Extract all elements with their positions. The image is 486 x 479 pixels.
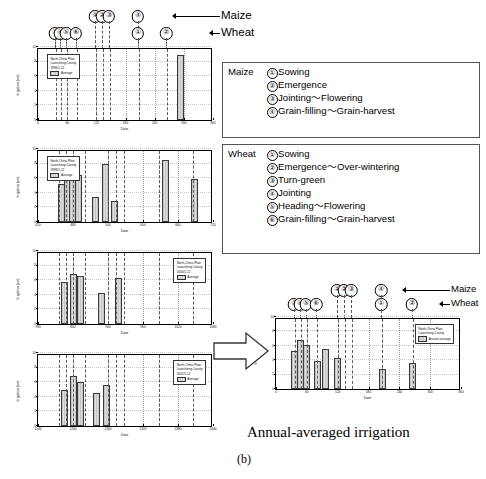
bottom-stage-dropline bbox=[337, 295, 338, 319]
wheat-stage-label: Grain-filling～Grain-harvest bbox=[278, 213, 479, 226]
x-axis-label: Date bbox=[121, 127, 129, 131]
gridline-vertical bbox=[126, 49, 127, 120]
chart-legend-line: 1998/1-12 bbox=[50, 168, 76, 172]
chart-legend: North-China PlainLuancheng County1996/1-… bbox=[47, 54, 80, 79]
chart-legend-series: Annual-average bbox=[418, 336, 450, 341]
stage-marker-line bbox=[85, 355, 86, 426]
x-axis-tick-label: 1200 bbox=[69, 428, 76, 431]
y-axis-label: Irrigation (cm) bbox=[17, 176, 21, 197]
chart-legend-series-label: Average bbox=[61, 71, 72, 75]
y-axis-tick-mark bbox=[36, 367, 38, 368]
bar bbox=[92, 197, 99, 222]
gridline-horizontal bbox=[38, 250, 211, 251]
y-axis-tick-mark bbox=[36, 279, 38, 280]
top-stage-dropline bbox=[102, 21, 103, 49]
maize-arrow-line-top bbox=[174, 16, 220, 17]
maize-arrow-head-top bbox=[172, 13, 176, 19]
maize-stage-row: ③Jointing～Flowering bbox=[223, 92, 479, 105]
wheat-stage-number: ② bbox=[267, 163, 278, 174]
stage-marker-line bbox=[193, 151, 194, 222]
x-axis-tick-mark bbox=[178, 220, 179, 222]
x-axis-tick-mark bbox=[178, 322, 179, 324]
chart-irrigation-2000: 024681078084090096010201080DateIrrigatio… bbox=[37, 252, 212, 325]
x-axis-tick-label: 240 bbox=[152, 122, 157, 125]
wheat-stage-number: ① bbox=[267, 150, 278, 161]
stage-marker-line bbox=[96, 49, 97, 120]
figure-panel-b: ①②③④③④⑤⑥①② Maize Wheat 02468100601201802… bbox=[0, 0, 486, 479]
wheat-stage-row: ③Turn-green bbox=[223, 174, 479, 187]
stage-marker-line bbox=[124, 355, 125, 426]
x-axis-tick-mark bbox=[213, 424, 214, 426]
x-axis-tick-mark bbox=[399, 387, 400, 389]
x-axis-tick-mark bbox=[38, 322, 39, 324]
gridline-horizontal bbox=[38, 148, 211, 149]
chart-annual-average: 0246810060120180240300360DateIrrigation … bbox=[275, 318, 460, 390]
chart-legend-series: Average bbox=[50, 71, 76, 76]
gridline-horizontal bbox=[276, 316, 459, 317]
x-axis-tick-mark bbox=[143, 424, 144, 426]
x-axis-tick-label: 600 bbox=[140, 224, 145, 227]
maize-stage-number-cell: ② bbox=[266, 79, 278, 92]
bar bbox=[61, 282, 68, 324]
maize-stage-number-cell: ① bbox=[266, 66, 278, 79]
bar bbox=[103, 385, 110, 426]
maize-label-bottom: Maize bbox=[451, 283, 476, 294]
x-axis-tick-label: 720 bbox=[210, 224, 215, 227]
y-axis-tick-mark bbox=[274, 359, 276, 360]
y-axis-tick-mark bbox=[36, 61, 38, 62]
x-axis-tick-label: 300 bbox=[181, 122, 186, 125]
stage-marker-line bbox=[110, 49, 111, 120]
maize-stage-number-cell: ③ bbox=[266, 92, 278, 105]
x-axis-tick-mark bbox=[461, 387, 462, 389]
maize-stage-row: Maize①Sowing bbox=[223, 66, 479, 79]
stage-marker-line bbox=[307, 319, 308, 389]
y-axis-label: Irrigation (cm) bbox=[17, 380, 21, 401]
x-axis-tick-label: 660 bbox=[175, 224, 180, 227]
x-axis-tick-label: 180 bbox=[366, 391, 371, 394]
stage-marker-line bbox=[345, 319, 346, 389]
gridline-vertical bbox=[143, 355, 144, 426]
x-axis-tick-label: 360 bbox=[210, 122, 215, 125]
stage-marker-line bbox=[295, 319, 296, 389]
stage-marker-line bbox=[124, 151, 125, 222]
legend-swatch-icon bbox=[50, 71, 59, 76]
bar bbox=[77, 382, 84, 426]
x-axis-tick-label: 180 bbox=[123, 122, 128, 125]
wheat-stage-number: ⑤ bbox=[267, 202, 278, 213]
stage-marker-line bbox=[59, 355, 60, 426]
x-axis-tick-label: 60 bbox=[65, 122, 69, 125]
y-axis-tick-mark bbox=[274, 374, 276, 375]
x-axis-tick-label: 120 bbox=[94, 122, 99, 125]
x-axis-tick-mark bbox=[430, 387, 431, 389]
x-axis-tick-label: 780 bbox=[35, 326, 40, 329]
wheat-stage-number: ③ bbox=[267, 176, 278, 187]
chart-legend-line: 2002/1-12 bbox=[177, 372, 203, 376]
wheat-stage-number-cell: ② bbox=[266, 161, 278, 174]
x-axis-tick-label: 840 bbox=[70, 326, 75, 329]
x-axis-tick-label: 900 bbox=[105, 326, 110, 329]
x-axis-tick-label: 960 bbox=[140, 326, 145, 329]
stage-marker-line bbox=[66, 253, 67, 324]
y-axis-tick-mark bbox=[36, 410, 38, 411]
stage-marker-line bbox=[116, 151, 117, 222]
plot-area: 0246810060120180240300360DateIrrigation … bbox=[37, 48, 212, 121]
plot-area: 024681078084090096010201080DateIrrigatio… bbox=[37, 252, 212, 325]
x-axis-label: Date bbox=[121, 433, 129, 437]
chart-legend-series: Average bbox=[177, 275, 203, 280]
bar bbox=[93, 393, 100, 426]
y-axis-tick-mark bbox=[274, 330, 276, 331]
stage-marker-line bbox=[139, 49, 140, 120]
x-axis-tick-mark bbox=[369, 387, 370, 389]
y-axis-tick-mark bbox=[36, 265, 38, 266]
stage-marker-line bbox=[85, 151, 86, 222]
stage-marker-line bbox=[159, 355, 160, 426]
y-axis-tick-mark bbox=[36, 46, 38, 47]
x-axis-tick-label: 60 bbox=[305, 391, 309, 394]
y-axis-label: Irrigation (cm) bbox=[17, 278, 21, 299]
maize-arrow-line-bottom bbox=[404, 290, 450, 291]
wheat-stage-number-cell: ⑥ bbox=[266, 213, 278, 226]
stage-marker-line bbox=[108, 151, 109, 222]
bottom-stage-dropline bbox=[344, 295, 345, 319]
maize-stage-number: ④ bbox=[267, 107, 278, 118]
chart-irrigation-2002: 0246810114012001260132013801440DateIrrig… bbox=[37, 354, 212, 427]
